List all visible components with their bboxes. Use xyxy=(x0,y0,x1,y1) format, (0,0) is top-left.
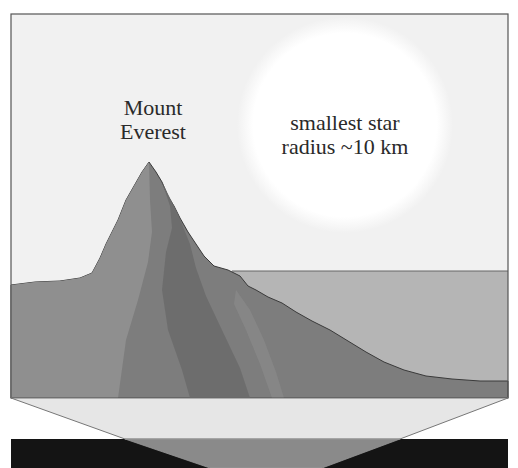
smallest-star-label-line2: radius ~10 km xyxy=(260,135,430,159)
mount-everest-label-line2: Everest xyxy=(98,120,208,144)
mount-everest-label: Mount Everest xyxy=(98,96,208,144)
diagram-canvas xyxy=(0,0,518,468)
mount-everest-label-line1: Mount xyxy=(98,96,208,120)
smallest-star-label: smallest star radius ~10 km xyxy=(260,111,430,159)
zoom-funnel-upper xyxy=(11,398,508,439)
smallest-star-label-line1: smallest star xyxy=(260,111,430,135)
